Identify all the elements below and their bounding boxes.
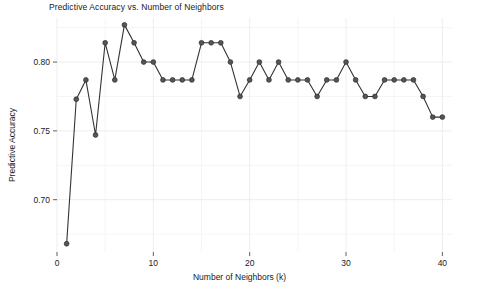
data-points	[64, 22, 445, 246]
data-point	[64, 241, 69, 246]
data-point	[132, 40, 137, 45]
data-point	[373, 94, 378, 99]
data-point	[315, 94, 320, 99]
data-point	[324, 78, 329, 83]
svg-text:0.70: 0.70	[33, 195, 50, 205]
data-point	[440, 115, 445, 120]
data-point	[344, 60, 349, 65]
data-point	[382, 78, 387, 83]
svg-text:20: 20	[245, 258, 255, 268]
data-point	[228, 60, 233, 65]
data-point	[353, 78, 358, 83]
svg-text:0.80: 0.80	[33, 57, 50, 67]
data-point	[112, 78, 117, 83]
data-point	[305, 78, 310, 83]
data-point	[430, 115, 435, 120]
minor-gridlines	[57, 18, 452, 252]
major-gridlines	[57, 18, 452, 252]
data-point	[103, 40, 108, 45]
data-point	[295, 78, 300, 83]
data-point	[218, 40, 223, 45]
data-point	[334, 78, 339, 83]
data-point	[286, 78, 291, 83]
data-point	[161, 78, 166, 83]
svg-text:0: 0	[55, 258, 60, 268]
data-point	[363, 94, 368, 99]
data-point	[257, 60, 262, 65]
data-point	[247, 78, 252, 83]
data-point	[180, 78, 185, 83]
data-point	[421, 94, 426, 99]
svg-text:40: 40	[438, 258, 448, 268]
data-point	[141, 60, 146, 65]
data-point	[267, 78, 272, 83]
axis-tick-labels: 0.700.750.80010203040	[33, 57, 447, 268]
svg-text:30: 30	[341, 258, 351, 268]
data-point	[238, 94, 243, 99]
data-point	[84, 78, 89, 83]
data-point	[189, 78, 194, 83]
axis-ticks	[53, 62, 442, 256]
data-point	[93, 133, 98, 138]
data-line	[67, 25, 443, 244]
data-point	[151, 60, 156, 65]
chart-figure: Predictive Accuracy vs. Number of Neighb…	[0, 0, 479, 291]
data-point	[401, 78, 406, 83]
data-point	[276, 60, 281, 65]
svg-text:10: 10	[149, 258, 159, 268]
data-point	[74, 97, 79, 102]
data-point	[411, 78, 416, 83]
data-point	[392, 78, 397, 83]
data-point	[209, 40, 214, 45]
plot-area: 0.700.750.80010203040	[0, 0, 479, 291]
data-point	[170, 78, 175, 83]
data-point	[122, 22, 127, 27]
data-point	[199, 40, 204, 45]
svg-text:0.75: 0.75	[33, 126, 50, 136]
